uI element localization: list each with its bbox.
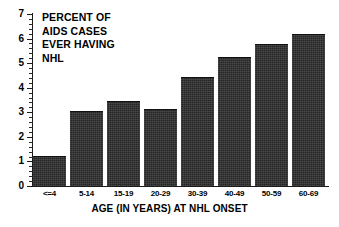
bar-cell xyxy=(70,14,103,186)
y-axis-tick-label: 2 xyxy=(2,132,24,142)
bar-cell xyxy=(292,14,325,186)
x-axis-tick-label: <=4 xyxy=(33,189,66,198)
y-axis-tick-label: 3 xyxy=(2,107,24,117)
bar xyxy=(144,109,177,186)
bar-cell xyxy=(107,14,140,186)
x-axis-tick-label: 40-49 xyxy=(218,189,251,198)
y-axis-tick-label: 5 xyxy=(2,58,24,68)
bar xyxy=(292,34,325,186)
bar xyxy=(181,77,214,186)
x-axis-tick-labels: <=45-1415-1920-2930-3940-4950-5960-69 xyxy=(33,189,325,198)
x-axis-tick-label: 20-29 xyxy=(144,189,177,198)
bar xyxy=(70,111,103,186)
bar-cell xyxy=(33,14,66,186)
x-axis-tick-label: 60-69 xyxy=(292,189,325,198)
x-axis-title: AGE (IN YEARS) AT NHL ONSET xyxy=(0,203,339,214)
x-axis-tick-label: 30-39 xyxy=(181,189,214,198)
bar xyxy=(255,44,288,186)
bar xyxy=(107,101,140,186)
y-axis-tick-label: 7 xyxy=(2,9,24,19)
y-axis-tick-label: 0 xyxy=(2,181,24,191)
bar-cell xyxy=(255,14,288,186)
x-axis-line xyxy=(32,186,329,187)
y-axis-tick-label: 1 xyxy=(2,156,24,166)
x-axis-tick-label: 50-59 xyxy=(255,189,288,198)
y-axis-tick-label: 6 xyxy=(2,34,24,44)
bar-cell xyxy=(181,14,214,186)
bar-series xyxy=(33,14,325,186)
y-axis-tick-label: 4 xyxy=(2,83,24,93)
bar-cell xyxy=(144,14,177,186)
bar xyxy=(218,57,251,186)
bar-chart: 01234567 PERCENT OF AIDS CASES EVER HAVI… xyxy=(0,0,339,227)
x-axis-tick-label: 15-19 xyxy=(107,189,140,198)
bar xyxy=(33,156,66,186)
y-axis-tick xyxy=(27,186,33,187)
x-axis-tick-label: 5-14 xyxy=(70,189,103,198)
bar-cell xyxy=(218,14,251,186)
